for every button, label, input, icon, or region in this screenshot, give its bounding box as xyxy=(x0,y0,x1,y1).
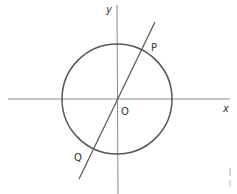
point-q-label: Q xyxy=(74,152,82,163)
scan-artifact xyxy=(229,180,231,187)
x-axis-label: x xyxy=(222,103,229,114)
y-axis-label: y xyxy=(105,4,113,15)
origin-label: O xyxy=(121,106,129,117)
scan-artifact xyxy=(229,168,231,176)
point-p-label: P xyxy=(151,42,157,53)
diagram-canvas: y x O P Q xyxy=(0,0,237,194)
